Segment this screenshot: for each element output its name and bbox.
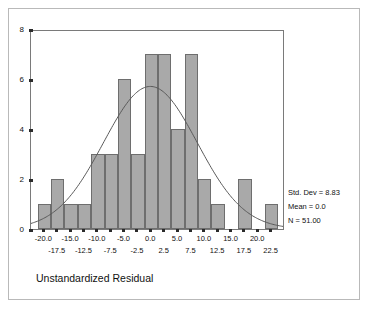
- y-axis-tick: [29, 129, 33, 132]
- y-axis-tick: [29, 29, 33, 32]
- x-axis-tick: [55, 229, 58, 232]
- x-axis-tick: [149, 229, 152, 232]
- x-axis-tick: [229, 229, 232, 232]
- y-axis-label: 6: [8, 76, 24, 84]
- y-axis-label: 4: [8, 126, 24, 134]
- y-axis-tick: [29, 179, 33, 182]
- x-axis-tick: [109, 229, 112, 232]
- x-axis-tick: [242, 229, 245, 232]
- x-axis-label: -17.5: [42, 246, 72, 255]
- x-axis-label: 20.0: [242, 234, 272, 243]
- x-axis-label: 2.5: [149, 246, 179, 255]
- x-axis-tick: [256, 229, 259, 232]
- normal-distribution-curve: [31, 31, 283, 229]
- plot-area: [30, 30, 284, 230]
- x-axis-tick: [176, 229, 179, 232]
- x-axis-tick: [82, 229, 85, 232]
- x-axis-tick: [269, 229, 272, 232]
- x-axis-label: -2.5: [122, 246, 152, 255]
- y-axis-tick: [29, 229, 33, 232]
- x-axis-tick: [202, 229, 205, 232]
- x-axis-tick: [42, 229, 45, 232]
- x-axis-label: 15.0: [216, 234, 246, 243]
- x-axis-tick: [189, 229, 192, 232]
- x-axis-label: 5.0: [162, 234, 192, 243]
- x-axis-label: -7.5: [95, 246, 125, 255]
- x-axis-label: -20.0: [28, 234, 58, 243]
- legend-n: N = 51.00: [288, 214, 340, 228]
- x-axis-label: -15.0: [55, 234, 85, 243]
- x-axis-title: Unstandardized Residual: [36, 272, 153, 284]
- legend-std-dev: Std. Dev = 8.83: [288, 186, 340, 200]
- statistics-legend: Std. Dev = 8.83 Mean = 0.0 N = 51.00: [288, 186, 340, 228]
- legend-mean: Mean = 0.0: [288, 200, 340, 214]
- y-axis-label: 8: [8, 26, 24, 34]
- x-axis-label: 12.5: [202, 246, 232, 255]
- x-axis-label: 0.0: [135, 234, 165, 243]
- histogram-figure: 02468 -20.0-17.5-15.0-12.5-10.0-7.5-5.0-…: [0, 0, 371, 319]
- x-axis-tick: [162, 229, 165, 232]
- x-axis-tick: [216, 229, 219, 232]
- x-axis-label: -12.5: [68, 246, 98, 255]
- x-axis-tick: [69, 229, 72, 232]
- x-axis-label: 22.5: [256, 246, 286, 255]
- y-axis-label: 0: [8, 226, 24, 234]
- x-axis-label: -5.0: [109, 234, 139, 243]
- x-axis-tick: [95, 229, 98, 232]
- x-axis-label: 10.0: [189, 234, 219, 243]
- x-axis-tick: [135, 229, 138, 232]
- x-axis-label: 7.5: [175, 246, 205, 255]
- y-axis-label: 2: [8, 176, 24, 184]
- y-axis-tick: [29, 79, 33, 82]
- x-axis-label: 17.5: [229, 246, 259, 255]
- x-axis-tick: [122, 229, 125, 232]
- x-axis-label: -10.0: [82, 234, 112, 243]
